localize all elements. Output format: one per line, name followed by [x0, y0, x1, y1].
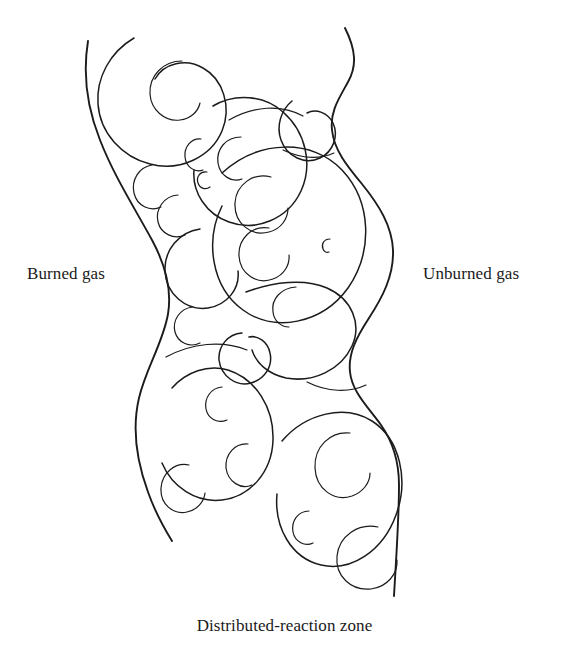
- left-flame-boundary: [86, 41, 172, 541]
- eddy-right-hook: [246, 282, 356, 379]
- curl-top-middle-b: [218, 137, 242, 180]
- curl-top-middle-a: [185, 139, 203, 171]
- eddy-middle-center: [219, 333, 271, 384]
- eddy-top-left-spiral: [98, 38, 226, 166]
- filament-upper-right: [229, 108, 303, 120]
- curl-top-left-inner: [150, 61, 200, 120]
- eddy-lower-right-lobe: [277, 412, 402, 566]
- distributed-reaction-zone-diagram: [0, 0, 569, 651]
- figure-page: Burned gas Unburned gas Distributed-reac…: [0, 0, 569, 651]
- curl-middle-left-small: [174, 307, 200, 345]
- curl-upper-left-b: [157, 195, 185, 237]
- curl-lower-left-a: [206, 387, 227, 421]
- eddy-top-middle: [194, 98, 307, 226]
- curl-lower-left-b: [161, 465, 205, 513]
- curl-lower-right-b: [293, 511, 313, 544]
- curl-lower-right-c: [337, 526, 397, 589]
- filament-lower-right: [307, 382, 366, 390]
- eddy-central-large: [213, 147, 366, 323]
- label-burned-gas: Burned gas: [27, 264, 105, 284]
- curl-central-lower: [239, 228, 289, 281]
- eddy-middle-left: [165, 229, 238, 308]
- filament-lower-center: [166, 344, 247, 357]
- label-unburned-gas: Unburned gas: [423, 264, 519, 284]
- curl-lower-left-c: [226, 444, 252, 487]
- curl-top-middle-c: [197, 172, 210, 189]
- curl-lower-right-a: [315, 433, 370, 498]
- figure-caption: Distributed-reaction zone: [0, 616, 569, 636]
- curl-upper-left-a: [133, 165, 161, 209]
- right-flame-boundary: [332, 28, 399, 596]
- curl-central-tiny: [322, 239, 330, 252]
- curl-right-hook-inner: [273, 287, 296, 327]
